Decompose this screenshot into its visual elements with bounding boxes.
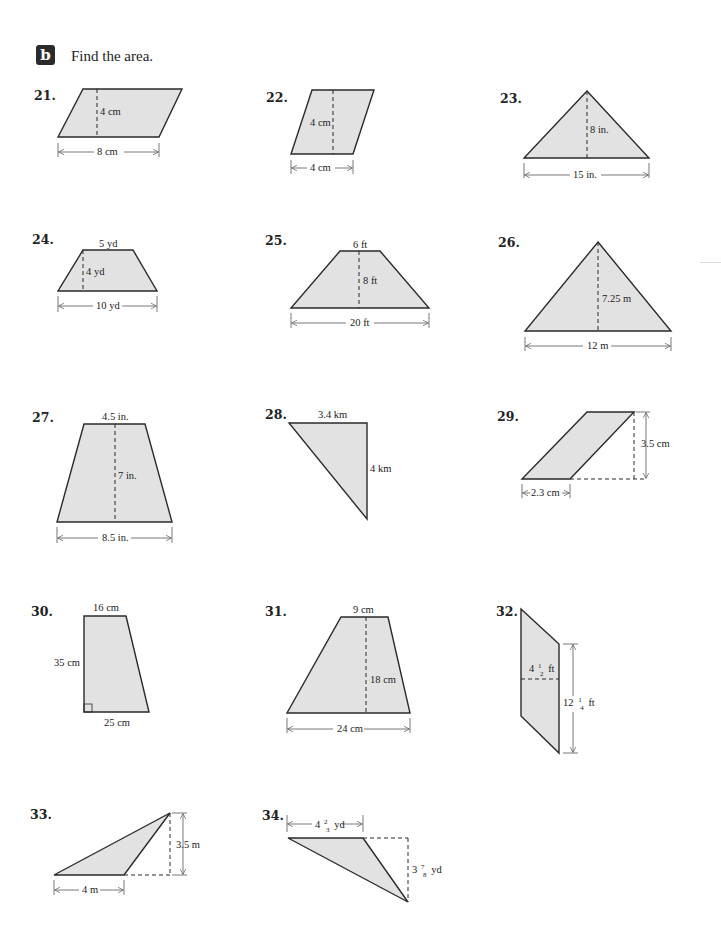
base-unit: yd [334, 819, 345, 830]
figure-23-base-label: 15 in. [573, 169, 597, 180]
figure-34-base-label: 4 2 3 yd [315, 815, 345, 834]
width-numerator: 1 [538, 662, 542, 670]
figure-22-parallelogram: 4 cm 4 cm [291, 90, 374, 174]
figure-32-parallelogram: 4 1 2 ft 12 1 4 ft [521, 609, 595, 753]
figure-31-top-label: 9 cm [353, 604, 374, 615]
figure-31-trapezoid: 9 cm 18 cm 24 cm [287, 604, 410, 734]
figure-29-base-label: 2.3 cm [531, 487, 560, 498]
height-denominator: 8 [423, 871, 427, 879]
height-denominator: 4 [580, 704, 584, 712]
figure-23-height-label: 8 in. [590, 124, 609, 135]
figure-32-height-label: 12 1 4 ft [563, 693, 595, 712]
figure-22-height-label: 4 cm [310, 117, 331, 128]
figure-21-base-label: 8 cm [97, 146, 118, 157]
height-whole: 3 [412, 864, 417, 875]
figure-29-parallelogram: 3.5 cm 2.3 cm [522, 412, 670, 498]
figure-28-top-label: 3.4 km [318, 409, 347, 420]
figure-25-trapezoid: 6 ft 8 ft 20 ft [291, 239, 429, 328]
figure-31-height-label: 18 cm [370, 674, 396, 685]
figure-34-obtuse-triangle: 4 2 3 yd 3 7 8 yd [287, 815, 442, 902]
figure-29-height-label: 3.5 cm [641, 438, 670, 449]
figure-26-base-label: 12 m [587, 340, 608, 351]
height-numerator: 1 [578, 696, 582, 704]
figure-33-obtuse-triangle: 3.5 m 4 m [54, 813, 200, 895]
height-unit: yd [431, 864, 442, 875]
figure-28-side-label: 4 km [370, 463, 391, 474]
figure-26-height-label: 7.25 m [602, 293, 631, 304]
figure-28-right-triangle: 3.4 km 4 km [289, 409, 391, 519]
figure-21-parallelogram: 4 cm 8 cm [58, 89, 182, 157]
figure-25-base-label: 20 ft [350, 317, 370, 328]
figure-27-trapezoid: 4.5 in. 7 in. 8.5 in. [57, 411, 172, 543]
base-numerator: 2 [324, 818, 328, 826]
figure-34-height-label: 3 7 8 yd [412, 860, 442, 879]
figure-23-triangle: 8 in. 15 in. [524, 91, 649, 180]
figure-30-top-label: 16 cm [93, 602, 119, 613]
height-whole: 12 [563, 697, 574, 708]
width-denominator: 2 [540, 670, 544, 678]
figure-25-top-label: 6 ft [353, 239, 367, 250]
figure-26-triangle: 7.25 m 12 m [525, 242, 671, 351]
figure-27-height-label: 7 in. [118, 470, 137, 481]
figure-30-side-label: 35 cm [54, 657, 80, 668]
width-unit: ft [548, 663, 554, 674]
height-numerator: 7 [421, 863, 425, 871]
figure-22-base-label: 4 cm [310, 162, 331, 173]
height-unit: ft [588, 697, 594, 708]
figure-30-right-trapezoid: 16 cm 35 cm 25 cm [54, 602, 149, 728]
figure-24-trapezoid: 5 yd 4 yd 10 yd [58, 238, 157, 312]
width-whole: 4 [529, 663, 535, 674]
figure-24-base-label: 10 yd [96, 300, 120, 311]
base-denominator: 3 [326, 826, 330, 834]
figure-27-base-label: 8.5 in. [102, 532, 129, 543]
figure-33-base-label: 4 m [82, 884, 98, 895]
figure-24-height-label: 4 yd [86, 266, 105, 277]
figure-27-top-label: 4.5 in. [102, 411, 129, 422]
figures-canvas: 4 cm 8 cm 4 cm 4 cm 8 in. 15 in. 5 yd 4 … [0, 0, 721, 925]
base-whole: 4 [315, 819, 321, 830]
figure-25-height-label: 8 ft [363, 275, 377, 286]
figure-30-base-label: 25 cm [104, 717, 130, 728]
figure-21-height-label: 4 cm [100, 106, 121, 117]
figure-24-top-label: 5 yd [99, 238, 118, 249]
figure-31-base-label: 24 cm [337, 723, 363, 734]
figure-33-height-label: 3.5 m [176, 839, 200, 850]
